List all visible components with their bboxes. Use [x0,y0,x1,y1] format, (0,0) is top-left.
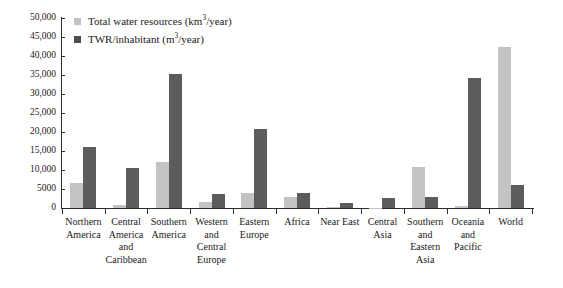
x-axis-tick-mark [147,209,148,214]
x-axis-line [61,208,534,209]
y-axis-tick-mark [61,18,65,19]
y-axis-tick-mark [61,113,65,114]
x-axis-tick-mark [276,209,277,214]
bar-total-water-resources [327,207,340,208]
bar-group [284,18,310,208]
bar-group [156,18,182,208]
x-axis-tick-mark [318,209,319,214]
bar-group [455,18,481,208]
y-axis-tick-label: 20,000 [30,127,56,137]
y-axis-tick-label: 40,000 [30,51,56,61]
bar-twr-per-inhabitant [169,74,182,208]
bar-total-water-resources [113,205,126,208]
x-axis-tick-mark [532,209,533,214]
bar-twr-per-inhabitant [340,203,353,208]
bar-twr-per-inhabitant [254,129,267,208]
bar-twr-per-inhabitant [511,185,524,208]
y-axis-tick-label: 30,000 [30,89,56,99]
bar-group [327,18,353,208]
bar-twr-per-inhabitant [83,147,96,208]
bar-twr-per-inhabitant [126,168,139,208]
bar-total-water-resources [199,202,212,208]
y-axis-tick-label: 10,000 [30,165,56,175]
bar-group [412,18,438,208]
y-axis-tick-label: 50,000 [30,13,56,23]
y-axis-tick-mark [61,75,65,76]
y-axis-tick-mark [61,132,65,133]
bar-total-water-resources [412,167,425,208]
y-axis-tick-label: 35,000 [30,70,56,80]
y-axis-labels: 50,00045,00040,00035,00030,00025,00020,0… [0,18,56,208]
y-axis-tick-mark [61,56,65,57]
y-axis-tick-label: 45,000 [30,32,56,42]
bar-twr-per-inhabitant [468,78,481,208]
plot-area [62,18,532,208]
y-axis-tick-mark [61,151,65,152]
x-axis-tick-mark [404,209,405,214]
bar-twr-per-inhabitant [425,197,438,208]
x-axis-category-label: World [485,216,537,229]
bar-twr-per-inhabitant [297,193,310,208]
bar-group [199,18,225,208]
y-axis-tick-mark [61,170,65,171]
bar-group [113,18,139,208]
x-axis-tick-mark [233,209,234,214]
bar-total-water-resources [284,197,297,208]
bar-total-water-resources [498,47,511,209]
y-axis-tick-mark [61,37,65,38]
bar-group [70,18,96,208]
x-axis-tick-mark [489,209,490,214]
bar-group [241,18,267,208]
bar-total-water-resources [241,193,254,208]
bar-total-water-resources [156,162,169,208]
bar-total-water-resources [70,183,83,208]
y-axis-tick-mark [61,208,65,209]
y-axis-tick-label: 15,000 [30,146,56,156]
x-axis-category-labels: Northern AmericaCentral America and Cari… [0,216,563,288]
bar-twr-per-inhabitant [382,198,395,208]
x-axis-tick-mark [361,209,362,214]
y-axis-tick-label: 25,000 [30,108,56,118]
y-axis-tick-label: 5000 [37,184,56,194]
y-axis-tick-label: 0 [51,203,56,213]
y-axis-tick-mark [61,94,65,95]
x-axis-tick-mark [105,209,106,214]
bar-total-water-resources [455,206,468,208]
x-axis-tick-mark [62,209,63,214]
bar-twr-per-inhabitant [212,194,225,208]
bar-group [498,18,524,208]
x-axis-tick-mark [447,209,448,214]
bar-group [369,18,395,208]
y-axis-tick-mark [61,189,65,190]
water-resources-bar-chart: Total water resources (km3/year) TWR/inh… [0,0,563,288]
x-axis-tick-mark [190,209,191,214]
